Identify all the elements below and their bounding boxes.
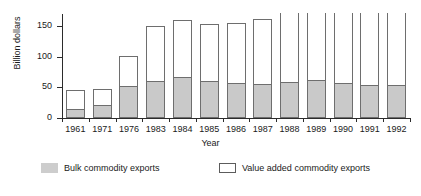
x-axis-tick: [196, 118, 197, 122]
bar-segment-bulk-1990: [334, 83, 353, 118]
stacked-bar-chart: Billion dollars 050100150 19611971197619…: [0, 0, 421, 196]
legend-item-value-added-commodity-exports: Value added commodity exports: [219, 163, 370, 173]
x-axis-label-1988: 1988: [275, 124, 305, 134]
x-axis-line: [62, 118, 411, 119]
bar-segment-bulk-1961: [66, 109, 85, 118]
chart-legend: Bulk commodity exports Value added commo…: [0, 163, 421, 183]
bar-segment-bulk-1992: [387, 85, 406, 118]
bar-segment-bulk-1976: [119, 86, 138, 118]
x-axis-tick: [276, 118, 277, 122]
x-axis-label-1987: 1987: [248, 124, 278, 134]
bar-segment-bulk-1989: [307, 80, 326, 118]
legend-label-value-added: Value added commodity exports: [242, 163, 370, 173]
bar-segment-bulk-1985: [200, 81, 219, 118]
bar-segment-bulk-1991: [360, 85, 379, 118]
y-axis-tick-label: 100: [18, 52, 52, 61]
x-axis-label-1983: 1983: [141, 124, 171, 134]
bar-1987: [253, 19, 272, 118]
bar-1990: [334, 14, 353, 118]
x-axis-label-1986: 1986: [221, 124, 251, 134]
x-axis-tick: [89, 118, 90, 122]
bar-1984: [173, 20, 192, 118]
x-axis-tick: [62, 118, 63, 122]
x-axis-label-1985: 1985: [194, 124, 224, 134]
bar-segment-bulk-1988: [280, 82, 299, 118]
y-axis-tick-label: 0: [18, 113, 52, 122]
bar-segment-bulk-1971: [93, 105, 112, 118]
bar-1961: [66, 90, 85, 118]
legend-label-bulk: Bulk commodity exports: [64, 163, 160, 173]
plot-area: [62, 14, 410, 118]
bar-1986: [227, 23, 246, 118]
x-axis-tick: [169, 118, 170, 122]
y-axis-tick-label: 150: [18, 21, 52, 30]
x-axis-title: Year: [0, 138, 421, 148]
y-axis-title: Billion dollars: [12, 0, 22, 88]
x-axis-tick: [249, 118, 250, 122]
bar-1988: [280, 14, 299, 118]
bar-1971: [93, 89, 112, 118]
x-axis-tick: [383, 118, 384, 122]
x-axis-tick: [410, 118, 411, 122]
x-axis-label-1992: 1992: [382, 124, 412, 134]
bar-1985: [200, 24, 219, 118]
legend-item-bulk-commodity-exports: Bulk commodity exports: [41, 163, 160, 173]
bar-segment-bulk-1984: [173, 77, 192, 118]
x-axis-tick: [142, 118, 143, 122]
x-axis-tick: [116, 118, 117, 122]
x-axis-label-1984: 1984: [167, 124, 197, 134]
bar-segment-bulk-1987: [253, 84, 272, 118]
x-axis-tick: [356, 118, 357, 122]
legend-swatch-bulk-icon: [41, 163, 58, 173]
bar-1983: [146, 26, 165, 118]
bar-1989: [307, 14, 326, 118]
x-axis-label-1976: 1976: [114, 124, 144, 134]
legend-swatch-value-icon: [219, 163, 236, 173]
x-axis-label-1989: 1989: [301, 124, 331, 134]
x-axis-label-1990: 1990: [328, 124, 358, 134]
x-axis-label-1971: 1971: [87, 124, 117, 134]
bar-1991: [360, 14, 379, 118]
x-axis-tick: [223, 118, 224, 122]
x-axis-label-1991: 1991: [355, 124, 385, 134]
bar-segment-bulk-1986: [227, 83, 246, 118]
bar-1976: [119, 56, 138, 118]
x-axis-tick: [303, 118, 304, 122]
bar-segment-bulk-1983: [146, 81, 165, 118]
x-axis-tick: [330, 118, 331, 122]
y-axis-tick-label: 50: [18, 82, 52, 91]
bar-1992: [387, 14, 406, 118]
x-axis-label-1961: 1961: [60, 124, 90, 134]
